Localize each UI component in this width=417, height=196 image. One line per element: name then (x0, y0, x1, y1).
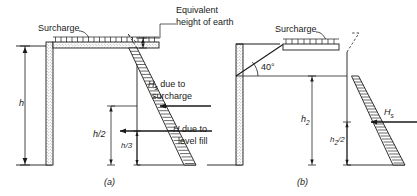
panel-b-wall-height-label: h2 (301, 114, 310, 126)
panel-b-linework (207, 32, 417, 165)
hs-text-line1: due to (160, 79, 185, 89)
panel-a-h-force-label-line1: H due to (173, 124, 207, 134)
panel-b-hs-force-label: Hs (384, 107, 394, 119)
panel-a-half-height-label: h/2 (93, 129, 106, 139)
panel-a-tag: (a) (104, 177, 115, 187)
h2half-suffix: /2 (338, 135, 345, 144)
hs-b-subscript: s (391, 112, 394, 119)
hs-subscript: s (155, 84, 158, 91)
panel-a-hs-force-label-line2: surcharge (152, 91, 192, 101)
h2-subscript: 2 (306, 119, 310, 126)
panel-a-surcharge-label: Surcharge (38, 23, 80, 33)
equivalent-height-label-line2: height of earth (176, 17, 234, 27)
panel-b-slope-angle-label: 40° (261, 62, 275, 72)
panel-a-h-force-label-line2: level fill (178, 136, 208, 146)
panel-b-half-height-label: h2/2 (330, 136, 345, 146)
panel-a-hs-force-label-line1: Hs due to (148, 79, 185, 91)
h-text-line1: due to (182, 124, 207, 134)
h-symbol: H (173, 124, 180, 134)
equivalent-height-label-line1: Equivalent (176, 5, 218, 15)
panel-b-surcharge-label: Surcharge (275, 24, 317, 34)
engineering-figure: Surcharge h Equivalent height of earth H… (0, 0, 417, 196)
panel-b-tag: (b) (297, 177, 308, 187)
panel-a-wall-height-label: h (19, 98, 24, 108)
panel-a-third-height-label: h/3 (121, 142, 132, 151)
